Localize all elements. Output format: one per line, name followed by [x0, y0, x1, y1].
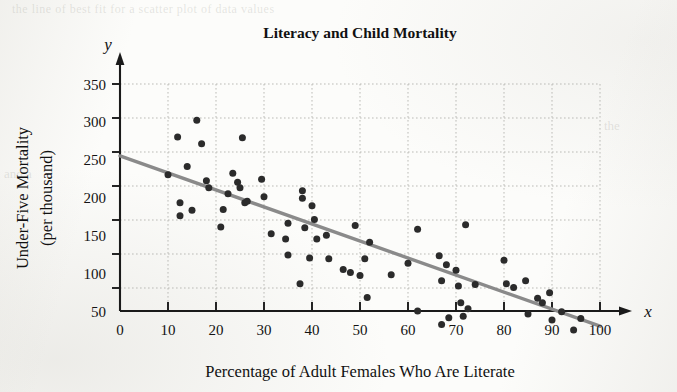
y-tick-label-150: 150 — [84, 228, 107, 244]
data-point — [546, 289, 553, 296]
data-point — [299, 195, 306, 202]
x-tick-label-20: 20 — [209, 322, 224, 338]
data-point — [177, 199, 184, 206]
x-tick-label-10: 10 — [161, 322, 176, 338]
x-tick-label-80: 80 — [497, 322, 512, 338]
data-point — [301, 224, 308, 231]
data-point — [220, 206, 227, 213]
data-point — [525, 311, 532, 318]
data-point — [472, 281, 479, 288]
data-point — [237, 184, 244, 191]
data-point — [460, 313, 467, 320]
data-point — [184, 163, 191, 170]
data-point — [285, 220, 292, 227]
data-point — [205, 184, 212, 191]
data-point — [455, 283, 462, 290]
y-axis-letter: y — [102, 35, 112, 54]
data-point — [325, 255, 332, 262]
x-tick-label-70: 70 — [449, 322, 464, 338]
data-point — [217, 224, 224, 231]
chart-title: Literacy and Child Mortality — [263, 24, 457, 41]
data-point — [229, 170, 236, 177]
data-point — [193, 117, 200, 124]
y-tick-label-300: 300 — [84, 114, 107, 130]
y-tick-label-100: 100 — [84, 266, 107, 282]
data-point — [539, 299, 546, 306]
x-tick-labels: 0102030405060708090100 — [116, 322, 611, 338]
data-point — [285, 252, 292, 259]
x-tick-label-40: 40 — [305, 322, 320, 338]
data-point — [361, 255, 368, 262]
y-axis-title-line1: Under-Five Mortality — [13, 126, 32, 269]
data-point — [198, 140, 205, 147]
data-point — [258, 176, 265, 183]
data-point — [443, 261, 450, 268]
data-point — [309, 202, 316, 209]
data-point — [364, 294, 371, 301]
data-point — [282, 236, 289, 243]
data-point — [165, 171, 172, 178]
data-point — [203, 177, 210, 184]
data-point — [189, 207, 196, 214]
x-tick-label-50: 50 — [353, 322, 368, 338]
data-point — [225, 190, 232, 197]
y-tick-label-250: 250 — [84, 152, 107, 168]
data-point — [503, 280, 510, 287]
data-point — [340, 266, 347, 273]
x-tick-label-30: 30 — [257, 322, 272, 338]
x-axis-arrowhead — [619, 307, 632, 316]
data-point — [577, 315, 584, 322]
x-tick-label-0: 0 — [116, 322, 124, 338]
data-point — [405, 260, 412, 267]
y-tick-label-200: 200 — [84, 190, 107, 206]
data-point — [313, 236, 320, 243]
figure-container: the line of best fit for a scatter plot … — [0, 0, 677, 392]
data-point — [438, 277, 445, 284]
x-tick-label-90: 90 — [545, 322, 560, 338]
data-point — [177, 212, 184, 219]
data-point — [465, 305, 472, 312]
x-tick-label-100: 100 — [589, 322, 612, 338]
data-points-layer — [165, 117, 585, 334]
data-point — [244, 198, 251, 205]
data-point — [323, 232, 330, 239]
data-point — [306, 255, 313, 262]
data-point — [501, 257, 508, 264]
data-point — [436, 252, 443, 259]
data-point — [414, 308, 421, 315]
data-point — [570, 326, 577, 333]
data-point — [239, 134, 246, 141]
data-point — [453, 267, 460, 274]
x-axis-title: Percentage of Adult Females Who Are Lite… — [205, 362, 514, 381]
data-point — [297, 280, 304, 287]
y-tick-labels: 50100150200250300350 — [84, 77, 107, 320]
data-point — [558, 308, 565, 315]
data-point — [510, 284, 517, 291]
y-axis-arrowhead — [116, 52, 125, 65]
data-point — [174, 133, 181, 140]
axes — [116, 52, 632, 315]
data-point — [438, 321, 445, 328]
data-point — [388, 271, 395, 278]
x-axis-letter: x — [643, 302, 652, 321]
data-point — [347, 269, 354, 276]
data-point — [311, 216, 318, 223]
data-point — [462, 221, 469, 228]
data-point — [261, 193, 268, 200]
y-tick-label-50: 50 — [91, 304, 106, 320]
y-axis-title-line2: (per thousand) — [37, 150, 56, 246]
data-point — [414, 226, 421, 233]
data-point — [457, 299, 464, 306]
data-point — [352, 222, 359, 229]
x-tick-label-60: 60 — [401, 322, 416, 338]
y-tick-label-350: 350 — [84, 77, 107, 93]
scatter-plot-svg: Literacy and Child Mortality y x 5010015… — [0, 0, 677, 392]
data-point — [366, 239, 373, 246]
data-point — [299, 187, 306, 194]
data-point — [445, 314, 452, 321]
data-point — [268, 230, 275, 237]
data-point — [357, 272, 364, 279]
data-point — [522, 277, 529, 284]
